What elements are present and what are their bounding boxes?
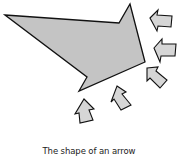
big-arrow-shape (5, 4, 145, 91)
small-arrow-mid-right (154, 39, 176, 62)
small-arrow-top-right (150, 10, 172, 31)
arrow-diagram (0, 0, 178, 130)
figure-caption: The shape of an arrow (0, 146, 178, 156)
small-arrow-lower-right (147, 67, 167, 88)
small-arrow-bottom-left (75, 99, 94, 123)
small-arrow-bottom-mid (111, 86, 131, 110)
